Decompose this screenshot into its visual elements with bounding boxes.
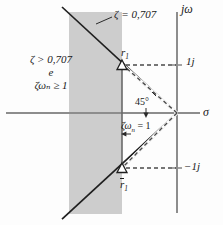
angle-label-45deg: 45° <box>135 97 149 108</box>
region-condition-line-3: ζωₙ ≥ 1 <box>20 80 82 92</box>
settling-constraint-head: ζω <box>121 120 132 131</box>
tick-label-1j-positive: 1j <box>186 56 195 68</box>
sigma-axis-label-text: σ <box>203 105 209 119</box>
pole-label-r1: r1 <box>121 47 129 61</box>
region-condition-line-1: ζ > 0,707 <box>20 54 82 66</box>
jomega-axis-label: jω <box>181 3 193 16</box>
tick-label-1j-positive-text: 1j <box>186 55 195 67</box>
region-condition-line-2: e <box>20 67 82 79</box>
damping-boundary-label: ζ = 0,707 <box>114 9 156 21</box>
arrowhead-45deg <box>143 113 148 118</box>
pole-label-r1-subscript: 1 <box>125 52 129 61</box>
settling-constraint-tail: = 1 <box>135 120 151 131</box>
settling-constraint-label: ζωn = 1 <box>121 121 151 133</box>
jomega-axis-label-text: jω <box>181 2 193 16</box>
angle-label-45deg-text: 45° <box>135 96 149 107</box>
pole-label-r1-conjugate-subscript: 1 <box>124 184 128 193</box>
pole-label-r1-conjugate: r1 <box>120 178 128 193</box>
tick-label-1j-negative-text: −1j <box>184 160 200 172</box>
sigma-axis-label: σ <box>203 106 209 119</box>
tick-label-1j-negative: −1j <box>184 161 200 173</box>
damping-boundary-label-text: ζ = 0,707 <box>114 8 156 20</box>
figure-root: ζ = 0,707 jω ζ > 0,707 e ζωₙ ≥ 1 r1 r1 1… <box>0 0 223 225</box>
region-condition-label: ζ > 0,707 e ζωₙ ≥ 1 <box>20 52 82 93</box>
s-plane-diagram <box>0 0 223 225</box>
